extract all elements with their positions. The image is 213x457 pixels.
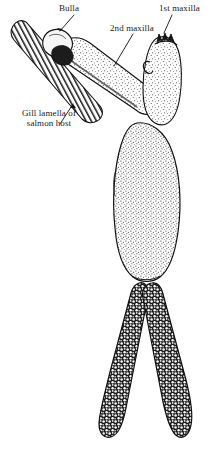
salmincola-diagram <box>0 0 213 457</box>
label-first-maxilla: 1st maxilla <box>159 3 200 13</box>
label-bulla: Bulla <box>59 3 79 13</box>
bulla-anchor <box>52 46 73 66</box>
label-gill-lamella: Gill lamella of salmon host <box>16 108 82 128</box>
label-second-maxilla: 2nd maxilla <box>110 23 154 33</box>
